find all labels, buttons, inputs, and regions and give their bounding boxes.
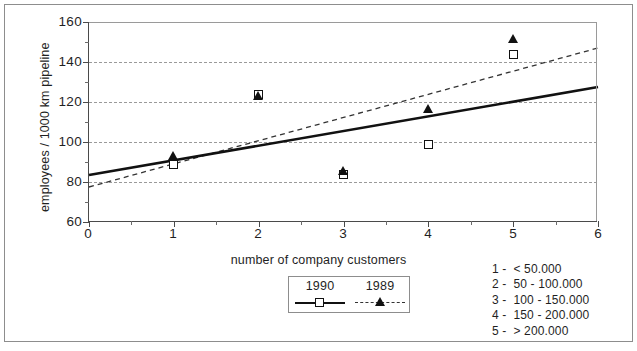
series-legend: 1990 1989 <box>288 276 410 313</box>
category-key-line-1: 1 - < 50.000 <box>492 262 589 277</box>
data-point-1989-x1 <box>168 151 178 160</box>
x-tick-label-0: 0 <box>70 226 106 241</box>
data-point-1990-x1 <box>169 160 178 169</box>
data-point-1989-x5 <box>508 34 518 43</box>
legend-entry-1989: 1989 <box>351 279 409 311</box>
legend-entry-1990: 1990 <box>291 279 349 311</box>
category-key-line-2: 2 - 50 - 100.000 <box>492 277 589 292</box>
chart-figure: employees / 1000 km pipeline 160 140 120… <box>0 0 637 351</box>
legend-sample-1989 <box>351 295 409 311</box>
category-key-line-3: 3 - 100 - 150.000 <box>492 293 589 308</box>
y-tick-label-140: 140 <box>48 54 82 69</box>
data-point-1989-x3 <box>338 166 348 175</box>
y-tick-label-120: 120 <box>48 94 82 109</box>
category-key-line-5: 5 - > 200.000 <box>492 324 589 339</box>
legend-sample-1990 <box>291 295 349 311</box>
x-tick-label-6: 6 <box>580 226 616 241</box>
data-point-1990-x4 <box>424 140 433 149</box>
legend-marker-triangle <box>375 297 385 306</box>
x-tick-label-5: 5 <box>495 226 531 241</box>
y-tick-label-100: 100 <box>48 134 82 149</box>
x-tick-label-4: 4 <box>410 226 446 241</box>
legend-label-1990: 1990 <box>291 279 349 293</box>
data-point-1989-x4 <box>423 104 433 113</box>
data-point-1989-x2 <box>253 91 263 100</box>
plot-area <box>88 22 597 222</box>
x-tick-label-1: 1 <box>155 226 191 241</box>
trendlines-overlay <box>89 22 598 222</box>
y-tick-label-80: 80 <box>48 174 82 189</box>
category-key: 1 - < 50.000 2 - 50 - 100.000 3 - 100 - … <box>492 262 589 339</box>
category-key-line-4: 4 - 150 - 200.000 <box>492 308 589 323</box>
data-point-1990-x5 <box>509 50 518 59</box>
x-axis-tick-6 <box>598 221 599 227</box>
x-tick-label-3: 3 <box>325 226 361 241</box>
y-tick-label-160: 160 <box>48 14 82 29</box>
y-axis-label-wrapper: employees / 1000 km pipeline <box>22 0 42 230</box>
legend-label-1989: 1989 <box>351 279 409 293</box>
trendline-1990 <box>89 87 598 175</box>
legend-marker-square <box>315 298 324 307</box>
x-tick-label-2: 2 <box>240 226 276 241</box>
